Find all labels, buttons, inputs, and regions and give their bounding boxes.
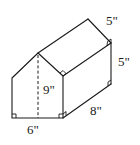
wall-height-label: 5" — [118, 55, 130, 68]
height-label: 9" — [43, 83, 55, 96]
depth-edge — [63, 84, 111, 118]
right-angle-marker-bottom-right — [59, 114, 63, 118]
roof-edge-label: 5" — [106, 14, 118, 27]
right-angle-marker-bottom-left — [12, 114, 16, 118]
prism-diagram: 5" 5" 9" 8" 6" — [0, 0, 140, 145]
depth-label: 8" — [90, 104, 102, 117]
ridge-edge — [38, 19, 88, 53]
base-width-label: 6" — [27, 123, 39, 136]
eave-edge — [63, 43, 111, 76]
prism-drawing — [0, 0, 140, 145]
